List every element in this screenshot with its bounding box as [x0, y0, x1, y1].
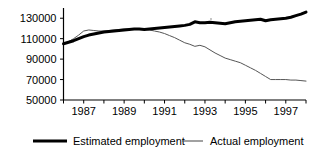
- x-tick-label-1995: 1995: [233, 105, 257, 117]
- x-tick-label-1997: 1997: [274, 105, 298, 117]
- y-tick-label-90000: 90000: [26, 53, 57, 65]
- employment-line-chart: 500007000090000110000130000 198719891991…: [0, 0, 322, 158]
- y-tick-label-50000: 50000: [26, 94, 57, 106]
- x-tick-label-1993: 1993: [193, 105, 217, 117]
- x-tick-label-1987: 1987: [71, 105, 95, 117]
- y-tick-label-70000: 70000: [26, 74, 57, 86]
- scan-speck: [210, 18, 212, 20]
- y-tick-label-110000: 110000: [21, 33, 57, 45]
- legend-label-estimated: Estimated employment: [73, 135, 185, 147]
- x-tick-label-1991: 1991: [152, 105, 176, 117]
- x-tick-label-1989: 1989: [112, 105, 136, 117]
- chart-legend: Estimated employment Actual employment: [33, 135, 304, 147]
- chart-canvas: 500007000090000110000130000 198719891991…: [0, 0, 322, 158]
- y-tick-label-130000: 130000: [20, 12, 57, 24]
- legend-label-actual: Actual employment: [210, 135, 304, 147]
